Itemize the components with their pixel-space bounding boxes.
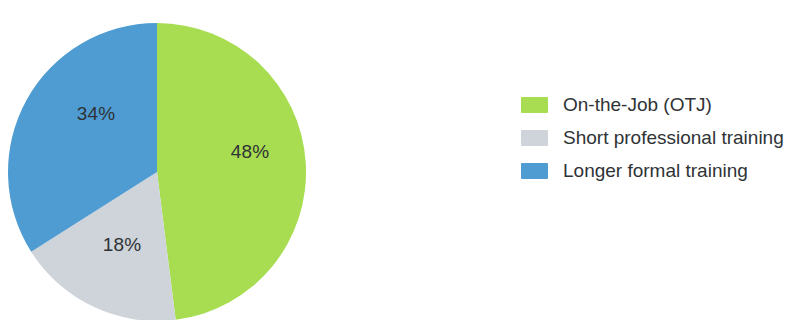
legend-label-short-professional-training: Short professional training	[563, 128, 784, 147]
legend-label-longer-formal-training: Longer formal training	[563, 161, 748, 180]
legend-swatch-short-professional-training-icon	[521, 130, 548, 146]
pie-chart-figure: 48% 18% 34% On-the-Job (OTJ) Short profe…	[0, 0, 789, 320]
legend-item-longer-formal-training[interactable]: Longer formal training	[521, 154, 783, 187]
chart-legend: On-the-Job (OTJ) Short professional trai…	[521, 88, 783, 187]
legend-item-short-professional-training[interactable]: Short professional training	[521, 121, 783, 154]
pie-chart-svg: 48% 18% 34%	[0, 0, 330, 320]
pie-chart-plot-area: 48% 18% 34%	[0, 0, 330, 320]
pie-slices	[8, 23, 306, 320]
pie-label-longer-formal-training: 34%	[77, 103, 116, 124]
pie-label-short-professional-training: 18%	[103, 234, 142, 255]
legend-swatch-longer-formal-training-icon	[521, 163, 548, 179]
legend-label-on-the-job: On-the-Job (OTJ)	[563, 95, 712, 114]
legend-item-on-the-job[interactable]: On-the-Job (OTJ)	[521, 88, 783, 121]
legend-swatch-on-the-job-icon	[521, 97, 548, 113]
pie-slice-on-the-job[interactable]	[157, 23, 306, 320]
pie-label-on-the-job: 48%	[231, 141, 270, 162]
